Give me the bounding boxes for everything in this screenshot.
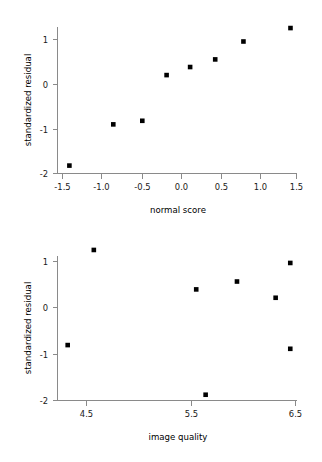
y-tick-label: 1 — [43, 35, 48, 45]
y-tick-label: -1 — [40, 350, 48, 360]
chart-panel-normal-score: 1 0 -1 -2 -1.5 -1.0 -0.5 0.0 0.5 1.0 1.5… — [0, 0, 322, 231]
data-point — [288, 26, 293, 31]
data-point — [111, 122, 116, 127]
x-axis-ticks: 4.5 5.5 6.5 — [80, 401, 302, 420]
data-point — [188, 65, 193, 70]
x-tick-label: 6.5 — [289, 409, 302, 419]
data-point — [288, 347, 293, 352]
data-point — [241, 39, 246, 44]
x-tick-label: -0.5 — [134, 182, 150, 192]
x-axis-title: normal score — [150, 205, 206, 215]
y-axis-ticks: 1 0 -1 -2 — [40, 35, 58, 179]
x-tick-label: 1.0 — [254, 182, 267, 192]
y-tick-label: -2 — [40, 169, 48, 179]
data-point — [213, 57, 218, 62]
y-tick-label: -1 — [40, 125, 48, 135]
data-point — [273, 295, 278, 300]
chart-panel-image-quality: 1 0 -1 -2 4.5 5.5 6.5 image quality stan… — [0, 231, 322, 462]
x-axis-ticks: -1.5 -1.0 -0.5 0.0 0.5 1.0 1.5 — [54, 174, 303, 193]
y-axis-title: standardized residual — [23, 54, 33, 147]
y-axis-ticks: 1 0 -1 -2 — [40, 257, 58, 406]
scatter-plot-image-quality: 1 0 -1 -2 4.5 5.5 6.5 image quality stan… — [0, 231, 322, 462]
x-axis-title: image quality — [149, 432, 208, 442]
x-tick-label: 0.0 — [175, 182, 188, 192]
x-tick-label: -1.0 — [93, 182, 109, 192]
y-tick-label: 0 — [43, 80, 48, 90]
data-point — [194, 287, 199, 292]
x-tick-label: 5.5 — [185, 409, 198, 419]
x-tick-label: 0.5 — [215, 182, 228, 192]
y-tick-label: 0 — [43, 303, 48, 313]
data-point — [203, 392, 208, 397]
data-points — [67, 26, 293, 168]
data-points — [65, 248, 292, 397]
y-tick-label: 1 — [43, 257, 48, 267]
x-tick-label: 1.5 — [290, 182, 303, 192]
data-point — [140, 118, 145, 123]
scatter-plot-normal-score: 1 0 -1 -2 -1.5 -1.0 -0.5 0.0 0.5 1.0 1.5… — [0, 0, 322, 231]
data-point — [67, 163, 72, 168]
data-point — [92, 248, 97, 253]
y-tick-label: -2 — [40, 396, 48, 406]
y-axis-title: standardized residual — [23, 282, 33, 375]
data-point — [164, 73, 169, 78]
data-point — [65, 343, 70, 348]
data-point — [235, 279, 240, 284]
x-tick-label: -1.5 — [54, 182, 70, 192]
x-tick-label: 4.5 — [80, 409, 93, 419]
data-point — [288, 261, 293, 266]
